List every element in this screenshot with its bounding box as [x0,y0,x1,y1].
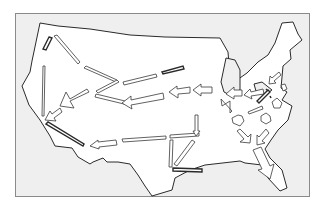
arrow-dash-icon [270,96,271,98]
migration-line-icon [173,168,202,172]
migration-line-icon [42,66,45,116]
migration-line-icon [169,140,173,167]
us-migration-map [0,0,333,223]
